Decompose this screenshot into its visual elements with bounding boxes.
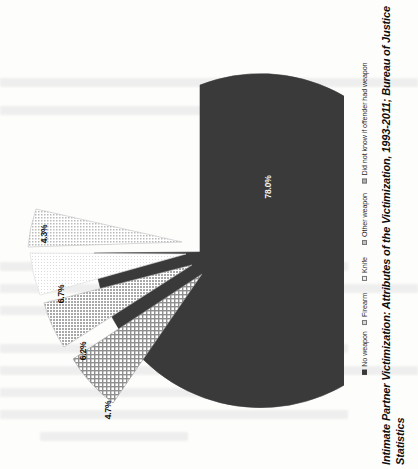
legend-swatch-icon (362, 179, 367, 184)
pie-chart-svg (14, 46, 344, 428)
legend-label: Other weapon (361, 193, 368, 237)
legend-swatch-icon (362, 276, 367, 281)
pie-label-did-not-know: 4.7% (103, 401, 113, 420)
legend-label: Knife (361, 257, 368, 273)
pie-slice-firearm (28, 209, 182, 247)
scanned-page-background: 78.0% 4.3% 6.7% 6.2% 4.7% No weapon Fire… (0, 0, 418, 469)
legend-swatch-icon (362, 320, 367, 325)
pie-label-other-weapon: 6.2% (78, 342, 88, 361)
caption-line-1: Intimate Partner Victimization: Attribut… (379, 5, 393, 465)
legend-swatch-icon (362, 240, 367, 245)
pie-label-knife: 6.7% (56, 285, 66, 304)
pie-label-no-weapon: 78.0% (263, 175, 273, 198)
pie-chart-figure: 78.0% 4.3% 6.7% 6.2% 4.7% No weapon Fire… (0, 0, 355, 469)
legend-label: Did not know if offender had weapon (361, 62, 368, 175)
caption-line-2: Statistics (393, 5, 407, 465)
legend-swatch-icon (362, 370, 367, 375)
legend-label: Firearm (361, 293, 368, 317)
pie-label-firearm: 4.3% (39, 225, 49, 244)
pie-chart-plot-area: 78.0% 4.3% 6.7% 6.2% 4.7% (14, 46, 344, 428)
legend-label: No weapon (361, 331, 368, 366)
figure-caption: Intimate Partner Victimization: Attribut… (371, 0, 415, 469)
